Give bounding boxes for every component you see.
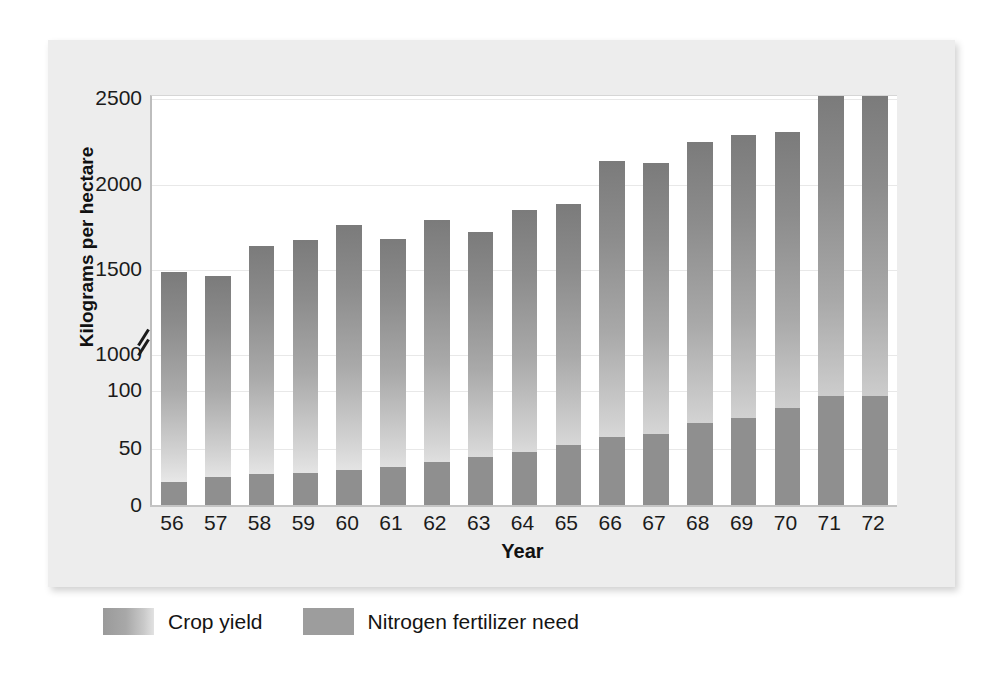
bar-crop-yield bbox=[205, 276, 231, 506]
x-axis-tick-label: 59 bbox=[281, 512, 325, 533]
legend-label: Nitrogen fertilizer need bbox=[368, 610, 579, 634]
bar-nitrogen-need bbox=[643, 434, 669, 506]
bar-pair bbox=[687, 96, 713, 506]
bar-crop-yield bbox=[293, 240, 319, 506]
bar-crop-yield bbox=[249, 246, 275, 506]
y-axis-title: Kilograms per hectare bbox=[76, 122, 98, 372]
bar-crop-yield bbox=[380, 239, 406, 506]
x-axis-tick-label: 69 bbox=[720, 512, 764, 533]
x-axis-tick-label: 63 bbox=[457, 512, 501, 533]
bar-nitrogen-need bbox=[556, 445, 582, 506]
bar-pair bbox=[643, 96, 669, 506]
bar-pair bbox=[775, 96, 801, 506]
bar-nitrogen-need bbox=[249, 474, 275, 506]
solid-gray-swatch bbox=[303, 608, 354, 635]
y-axis-tick-label: 100 bbox=[107, 379, 142, 400]
bar-pair bbox=[293, 96, 319, 506]
plot-area bbox=[150, 95, 897, 506]
bar-nitrogen-need bbox=[205, 477, 231, 506]
bar-pair bbox=[424, 96, 450, 506]
y-axis-tick-label: 1500 bbox=[95, 258, 142, 279]
x-axis-tick-label: 61 bbox=[369, 512, 413, 533]
bar-pair bbox=[556, 96, 582, 506]
bar-nitrogen-need bbox=[731, 418, 757, 506]
bar-pair bbox=[512, 96, 538, 506]
bar-nitrogen-need bbox=[599, 437, 625, 506]
bar-nitrogen-need bbox=[862, 396, 888, 506]
bar-nitrogen-need bbox=[775, 408, 801, 506]
bar-pair bbox=[468, 96, 494, 506]
x-axis-tick-label: 71 bbox=[807, 512, 851, 533]
bar-nitrogen-need bbox=[687, 423, 713, 506]
chart-legend: Crop yieldNitrogen fertilizer need bbox=[103, 608, 579, 635]
x-axis-tick-label: 60 bbox=[325, 512, 369, 533]
x-axis-tick-label: 66 bbox=[588, 512, 632, 533]
bar-nitrogen-need bbox=[293, 473, 319, 506]
x-axis-tick-label: 62 bbox=[413, 512, 457, 533]
y-axis-tick-label: 2500 bbox=[95, 87, 142, 108]
x-axis-line bbox=[150, 505, 897, 507]
bar-pair bbox=[862, 96, 888, 506]
bar-pair bbox=[161, 96, 187, 506]
x-axis-tick-label: 67 bbox=[632, 512, 676, 533]
legend-label: Crop yield bbox=[168, 610, 263, 634]
bar-nitrogen-need bbox=[424, 462, 450, 506]
bar-nitrogen-need bbox=[512, 452, 538, 506]
bar-crop-yield bbox=[161, 272, 187, 506]
x-axis-title: Year bbox=[150, 540, 895, 563]
x-axis-tick-label: 68 bbox=[676, 512, 720, 533]
x-axis-tick-label: 65 bbox=[544, 512, 588, 533]
bar-pair bbox=[336, 96, 362, 506]
x-axis-tick-label: 56 bbox=[150, 512, 194, 533]
bar-pair bbox=[249, 96, 275, 506]
bar-pair bbox=[731, 96, 757, 506]
bar-group bbox=[152, 96, 897, 506]
bar-nitrogen-need bbox=[468, 457, 494, 506]
y-axis-tick-label: 0 bbox=[130, 494, 142, 515]
bar-nitrogen-need bbox=[380, 467, 406, 506]
bar-nitrogen-need bbox=[161, 482, 187, 506]
x-axis-tick-label: 57 bbox=[194, 512, 238, 533]
gradient-gray-swatch bbox=[103, 608, 154, 635]
bar-pair bbox=[599, 96, 625, 506]
legend-item: Crop yield bbox=[103, 608, 263, 635]
bar-pair bbox=[205, 96, 231, 506]
bar-pair bbox=[818, 96, 844, 506]
axis-break-icon bbox=[132, 330, 158, 358]
bar-pair bbox=[380, 96, 406, 506]
y-axis-tick-label: 2000 bbox=[95, 173, 142, 194]
legend-item: Nitrogen fertilizer need bbox=[303, 608, 579, 635]
x-axis-tick-label: 64 bbox=[501, 512, 545, 533]
bar-crop-yield bbox=[336, 225, 362, 506]
x-axis-tick-label: 72 bbox=[851, 512, 895, 533]
bar-nitrogen-need bbox=[818, 396, 844, 506]
y-axis-tick-label: 50 bbox=[119, 437, 142, 458]
bar-chart-figure: 2500200015001000100500 56575859606162636… bbox=[48, 40, 955, 587]
bar-nitrogen-need bbox=[336, 470, 362, 506]
x-axis-tick-label: 70 bbox=[764, 512, 808, 533]
x-axis-tick-label: 58 bbox=[238, 512, 282, 533]
